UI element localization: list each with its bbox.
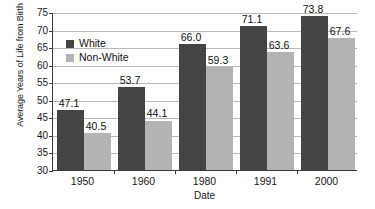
bar-value-label: 63.6 [269, 40, 289, 51]
bar-1950-white [57, 110, 84, 170]
chart-legend: WhiteNon-White [66, 38, 129, 66]
y-tick-label: 55 [26, 78, 48, 88]
x-tick-label: 2000 [315, 175, 338, 187]
legend-swatch-icon [66, 40, 74, 48]
bar-2000-non-white [328, 38, 355, 170]
bar-1991-non-white [267, 52, 294, 170]
y-tick-mark [49, 153, 53, 154]
y-tick-mark [49, 66, 53, 67]
legend-entry-white: White [66, 38, 129, 49]
y-tick-mark [49, 101, 53, 102]
bar-1991-white [240, 26, 267, 170]
bar-chart: Average Years of Life from Birth 3035404… [0, 0, 375, 209]
y-tick-label: 30 [26, 166, 48, 176]
x-tick-mark [297, 170, 298, 174]
bar-1960-non-white [145, 121, 172, 171]
x-tick-label: 1960 [132, 175, 155, 187]
bar-value-label: 53.7 [120, 75, 140, 86]
y-tick-mark [49, 48, 53, 49]
y-tick-label: 70 [26, 26, 48, 36]
y-axis-tick-labels: 30354045505560657075 [26, 13, 48, 171]
legend-swatch-icon [66, 54, 74, 62]
y-tick-label: 75 [26, 8, 48, 18]
legend-entry-non-white: Non-White [66, 52, 129, 63]
bar-2000-white [301, 16, 328, 170]
y-tick-mark [49, 31, 53, 32]
y-tick-mark [49, 118, 53, 119]
x-axis-title: Date [52, 190, 357, 201]
y-tick-mark [49, 83, 53, 84]
y-tick-mark [49, 171, 53, 172]
y-tick-label: 35 [26, 148, 48, 158]
bar-value-label: 66.0 [181, 32, 201, 43]
x-tick-mark [236, 170, 237, 174]
y-tick-mark [49, 136, 53, 137]
bar-value-label: 71.1 [242, 14, 262, 25]
y-tick-mark [49, 13, 53, 14]
legend-label: White [79, 38, 106, 49]
bar-value-label: 67.6 [330, 26, 350, 37]
bar-value-label: 40.5 [86, 121, 106, 132]
y-tick-label: 45 [26, 113, 48, 123]
bar-1980-white [179, 44, 206, 170]
y-tick-label: 65 [26, 43, 48, 53]
y-tick-label: 40 [26, 131, 48, 141]
y-axis-title: Average Years of Life from Birth [15, 0, 25, 150]
bar-value-label: 59.3 [208, 55, 228, 66]
bar-value-label: 47.1 [59, 98, 79, 109]
x-tick-label: 1991 [254, 175, 277, 187]
y-tick-label: 60 [26, 61, 48, 71]
legend-label: Non-White [79, 52, 129, 63]
bar-1950-non-white [84, 133, 111, 170]
bar-1960-white [118, 87, 145, 170]
x-tick-mark [175, 170, 176, 174]
bar-value-label: 44.1 [147, 108, 167, 119]
x-tick-mark [114, 170, 115, 174]
bar-1980-non-white [206, 67, 233, 170]
bar-value-label: 73.8 [303, 4, 323, 15]
x-tick-label: 1950 [71, 175, 94, 187]
x-tick-label: 1980 [193, 175, 216, 187]
y-tick-label: 50 [26, 96, 48, 106]
